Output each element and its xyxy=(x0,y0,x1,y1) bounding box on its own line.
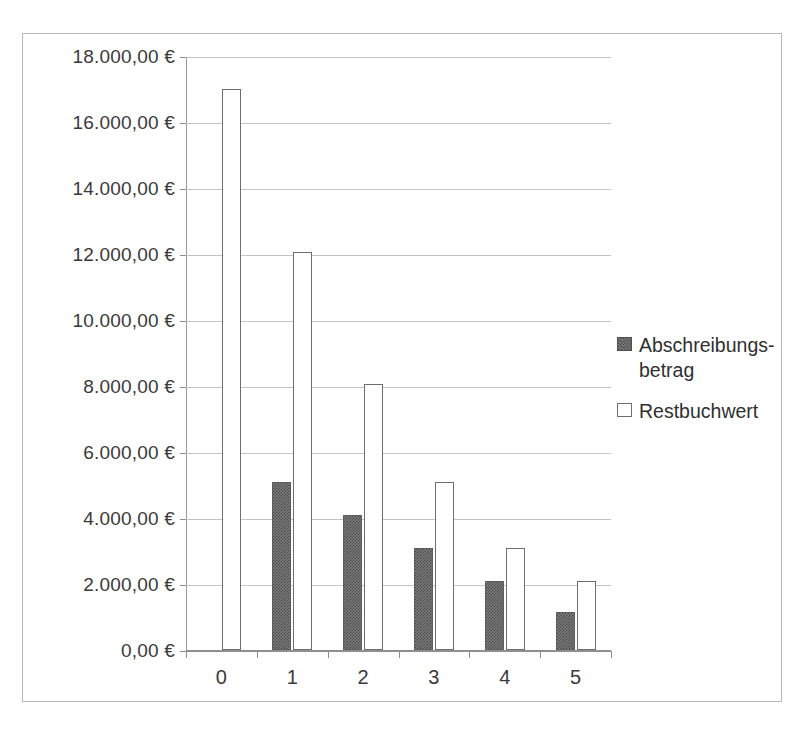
bar-group xyxy=(485,56,525,650)
chart-frame: 0,00 €2.000,00 €4.000,00 €6.000,00 €8.00… xyxy=(22,33,782,702)
y-axis-label: 14.000,00 € xyxy=(72,178,175,200)
y-axis-tick xyxy=(180,453,186,454)
x-axis-tick xyxy=(186,651,187,658)
x-axis-tick xyxy=(469,651,470,658)
x-axis-tick xyxy=(328,651,329,658)
bar-abschreibungsbetrag xyxy=(556,612,575,650)
y-axis-line xyxy=(186,57,187,651)
x-axis-label: 0 xyxy=(216,666,227,689)
legend-item: Abschreibungs- betrag xyxy=(617,333,792,383)
bar-group xyxy=(414,56,454,650)
legend-label: Restbuchwert xyxy=(639,399,758,424)
legend-swatch-restbuchwert xyxy=(617,403,632,417)
y-axis-tick xyxy=(180,321,186,322)
gridline xyxy=(186,57,611,58)
gridline xyxy=(186,453,611,454)
bar-restbuchwert xyxy=(364,384,383,650)
y-axis-label: 8.000,00 € xyxy=(83,376,175,398)
y-axis-label: 4.000,00 € xyxy=(83,508,175,530)
bar-restbuchwert xyxy=(222,89,241,650)
x-axis-tick xyxy=(540,651,541,658)
y-axis-label: 0,00 € xyxy=(121,640,175,662)
y-axis-tick xyxy=(180,189,186,190)
y-axis-label: 10.000,00 € xyxy=(72,310,175,332)
gridline xyxy=(186,585,611,586)
bar-restbuchwert xyxy=(293,252,312,650)
plot-area: 0,00 €2.000,00 €4.000,00 €6.000,00 €8.00… xyxy=(186,57,611,651)
bar-restbuchwert xyxy=(506,548,525,650)
y-axis-label: 18.000,00 € xyxy=(72,46,175,68)
gridline xyxy=(186,123,611,124)
legend-label: Abschreibungs- betrag xyxy=(639,333,775,383)
gridline xyxy=(186,387,611,388)
y-axis-tick xyxy=(180,519,186,520)
chart-legend: Abschreibungs- betragRestbuchwert xyxy=(617,333,792,440)
bar-abschreibungsbetrag xyxy=(272,482,291,650)
bar-abschreibungsbetrag xyxy=(485,581,504,650)
gridline xyxy=(186,519,611,520)
y-axis-label: 6.000,00 € xyxy=(83,442,175,464)
bar-abschreibungsbetrag xyxy=(343,515,362,650)
bar-group xyxy=(201,56,241,650)
x-axis-label: 1 xyxy=(287,666,298,689)
bar-restbuchwert xyxy=(577,581,596,650)
x-axis-tick xyxy=(257,651,258,658)
y-axis-tick xyxy=(180,123,186,124)
x-axis-tick xyxy=(399,651,400,658)
y-axis-label: 12.000,00 € xyxy=(72,244,175,266)
x-axis-tick xyxy=(611,651,612,658)
x-axis-label: 2 xyxy=(358,666,369,689)
bar-abschreibungsbetrag xyxy=(414,548,433,650)
y-axis-label: 16.000,00 € xyxy=(72,112,175,134)
y-axis-tick xyxy=(180,57,186,58)
gridline xyxy=(186,189,611,190)
legend-item: Restbuchwert xyxy=(617,399,792,424)
y-axis-tick xyxy=(180,387,186,388)
legend-swatch-abschreibungsbetrag xyxy=(617,337,632,351)
bar-group xyxy=(556,56,596,650)
y-axis-tick xyxy=(180,585,186,586)
bar-group xyxy=(343,56,383,650)
gridline xyxy=(186,255,611,256)
x-axis-label: 4 xyxy=(499,666,510,689)
bar-group xyxy=(272,56,312,650)
x-axis-label: 5 xyxy=(570,666,581,689)
y-axis-label: 2.000,00 € xyxy=(83,574,175,596)
x-axis-label: 3 xyxy=(428,666,439,689)
y-axis-tick xyxy=(180,255,186,256)
gridline xyxy=(186,321,611,322)
bar-restbuchwert xyxy=(435,482,454,650)
